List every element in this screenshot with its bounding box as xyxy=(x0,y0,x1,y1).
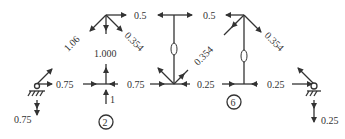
zero-marker-hd xyxy=(241,50,247,62)
pin-support-left xyxy=(28,84,45,97)
truss-diagram: 1.06 1.000 0.5 0.5 0.354 0.354 0.354 0.7… xyxy=(0,0,345,139)
label-ab: 0.75 xyxy=(56,79,74,90)
label-reaction-left: 0.75 xyxy=(14,114,32,125)
label-bf: 1.000 xyxy=(94,48,117,59)
label-fc: 0.354 xyxy=(123,30,147,54)
label-he: 0.354 xyxy=(263,30,287,54)
label-gh: 0.5 xyxy=(203,10,216,21)
zero-marker-gc xyxy=(171,43,177,55)
label-hc: 0.354 xyxy=(192,44,216,68)
label-load-b: 1 xyxy=(110,94,115,105)
circled-label-6: 6 xyxy=(231,97,236,108)
label-de: 0.25 xyxy=(267,79,285,90)
label-cd: 0.25 xyxy=(197,79,215,90)
circled-label-2: 2 xyxy=(103,117,108,128)
label-reaction-right: 0.25 xyxy=(321,115,339,126)
label-bc: 0.75 xyxy=(127,79,145,90)
roller-support-right xyxy=(306,83,321,96)
label-fg: 0.5 xyxy=(134,10,147,21)
label-af: 1.06 xyxy=(62,33,82,53)
